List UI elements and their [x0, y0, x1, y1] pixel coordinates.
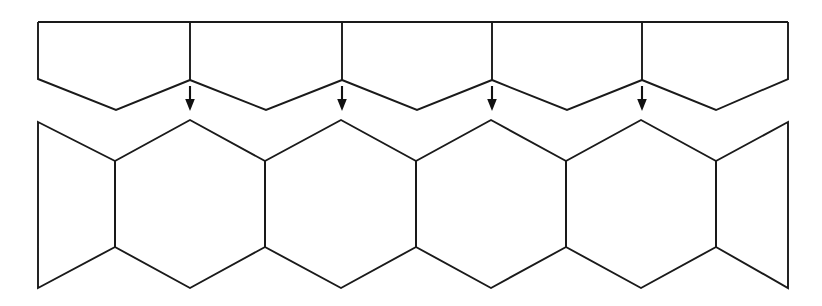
figure-root: Hexagonal tiling transformation diagram … — [0, 0, 822, 306]
canvas-background — [0, 0, 822, 306]
tiling-diagram-canvas: Hexagonal tiling transformation diagram … — [0, 0, 822, 306]
